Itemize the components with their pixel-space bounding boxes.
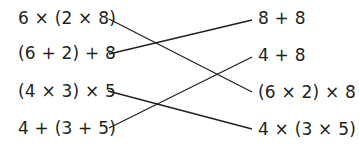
left-expression-3: (4 × 3) × 5	[18, 81, 116, 101]
connector-line-2	[109, 20, 252, 54]
left-expression-1: 6 × (2 × 8)	[18, 8, 116, 28]
connector-line-3	[108, 91, 252, 129]
right-expression-1: 8 + 8	[258, 8, 306, 28]
right-expression-3: (6 × 2) × 8	[258, 82, 356, 102]
connector-line-4	[109, 57, 252, 128]
right-expression-4: 4 × (3 × 5)	[258, 119, 356, 139]
right-expression-2: 4 + 8	[258, 45, 306, 65]
left-expression-4: 4 + (3 + 5)	[18, 118, 116, 138]
connector-line-1	[109, 19, 252, 92]
left-expression-2: (6 + 2) + 8	[18, 43, 116, 63]
